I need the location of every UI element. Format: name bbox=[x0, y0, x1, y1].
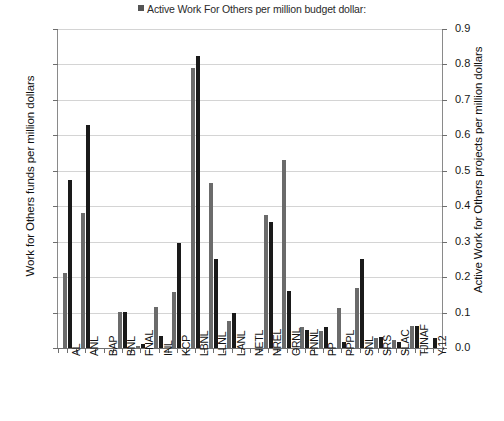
y-axis-right-tick-mark bbox=[442, 64, 447, 65]
x-axis-label: LLNL bbox=[216, 332, 228, 356]
x-axis-label: FNAL bbox=[143, 330, 155, 356]
x-axis-label: NETL bbox=[253, 330, 265, 356]
y-axis-left-tick-mark bbox=[53, 242, 58, 243]
x-axis-label: BNL bbox=[125, 336, 137, 356]
y-axis-right-tick-label: 0.8 bbox=[455, 57, 495, 69]
x-axis-tick-mark bbox=[159, 348, 160, 353]
gridline bbox=[58, 29, 442, 30]
x-axis-tick-mark bbox=[433, 348, 434, 353]
y-axis-left-tick-mark bbox=[53, 100, 58, 101]
x-axis-tick-mark bbox=[378, 348, 379, 353]
x-axis-label: Y-12 bbox=[436, 336, 448, 356]
x-axis-tick-mark bbox=[360, 348, 361, 353]
gridline bbox=[58, 206, 442, 207]
y-axis-left-title: Work for Others funds per million dollar… bbox=[24, 61, 36, 291]
x-axis-tick-mark bbox=[396, 348, 397, 353]
y-axis-right-tick-label: 0.0 bbox=[455, 341, 495, 353]
x-axis-label: ANL bbox=[88, 336, 100, 356]
y-axis-right-tick-label: 0.9 bbox=[455, 22, 495, 34]
x-axis-tick-mark bbox=[415, 348, 416, 353]
x-axis-label: LBNL bbox=[198, 331, 210, 356]
x-axis-tick-mark bbox=[341, 348, 342, 353]
x-axis-tick-mark bbox=[104, 348, 105, 353]
chart-container: Active Work For Others per million budge… bbox=[0, 0, 504, 421]
legend-swatch-icon bbox=[138, 5, 144, 11]
x-axis-tick-mark bbox=[232, 348, 233, 353]
x-axis-tick-mark bbox=[195, 348, 196, 353]
x-axis-tick-mark bbox=[67, 348, 68, 353]
y-axis-left-tick-mark bbox=[53, 313, 58, 314]
y-axis-right-tick-mark bbox=[442, 206, 447, 207]
x-axis-tick-mark bbox=[122, 348, 123, 353]
bar-funds[interactable] bbox=[264, 215, 268, 348]
x-axis-label: SNL bbox=[363, 336, 375, 356]
x-axis-tick-mark bbox=[213, 348, 214, 353]
chart-legend: Active Work For Others per million budge… bbox=[0, 2, 504, 15]
x-axis-tick-mark bbox=[58, 348, 59, 353]
y-axis-left-tick-mark bbox=[53, 171, 58, 172]
x-axis-tick-mark bbox=[323, 348, 324, 353]
bar-active-projects[interactable] bbox=[196, 56, 200, 348]
gridline bbox=[58, 313, 442, 314]
y-axis-right-tick-mark bbox=[442, 277, 447, 278]
y-axis-right-tick-label: 0.6 bbox=[455, 128, 495, 140]
gridline bbox=[58, 100, 442, 101]
y-axis-right-tick-label: 0.7 bbox=[455, 93, 495, 105]
bar-active-projects[interactable] bbox=[86, 125, 90, 348]
gridline bbox=[58, 64, 442, 65]
x-axis-label: SLAC bbox=[399, 329, 411, 356]
bar-funds[interactable] bbox=[63, 273, 67, 348]
bar-funds[interactable] bbox=[209, 183, 213, 348]
y-axis-left-tick-mark bbox=[53, 29, 58, 30]
y-axis-right-tick-label: 0.4 bbox=[455, 199, 495, 211]
gridline bbox=[58, 135, 442, 136]
y-axis-right-tick-mark bbox=[442, 242, 447, 243]
y-axis-left-tick-mark bbox=[53, 64, 58, 65]
x-axis-label: KCP bbox=[180, 335, 192, 356]
y-axis-right-tick-mark bbox=[442, 135, 447, 136]
x-axis-tick-mark bbox=[287, 348, 288, 353]
y-axis-right-tick-mark bbox=[442, 29, 447, 30]
plot-area bbox=[57, 29, 443, 349]
x-axis-tick-mark bbox=[305, 348, 306, 353]
x-axis-label: LANL bbox=[235, 331, 247, 356]
x-axis-tick-mark bbox=[177, 348, 178, 353]
y-axis-left-tick-mark bbox=[53, 135, 58, 136]
y-axis-left-tick-mark bbox=[53, 277, 58, 278]
legend-label: Active Work For Others per million budge… bbox=[147, 3, 366, 15]
y-axis-right-tick-label: 0.2 bbox=[455, 270, 495, 282]
y-axis-right-tick-mark bbox=[442, 171, 447, 172]
x-axis-label: SRS bbox=[381, 335, 393, 356]
x-axis-tick-mark bbox=[140, 348, 141, 353]
bar-funds[interactable] bbox=[191, 68, 195, 348]
x-axis-label: NREL bbox=[271, 329, 283, 356]
gridline bbox=[58, 171, 442, 172]
y-axis-right-tick-label: 0.5 bbox=[455, 164, 495, 176]
bar-active-projects[interactable] bbox=[68, 180, 72, 348]
x-axis-tick-mark bbox=[85, 348, 86, 353]
x-axis-label: PPPL bbox=[344, 330, 356, 356]
y-axis-right-tick-label: 0.1 bbox=[455, 306, 495, 318]
x-axis-tick-mark bbox=[250, 348, 251, 353]
y-axis-right-tick-mark bbox=[442, 100, 447, 101]
bar-funds[interactable] bbox=[282, 160, 286, 348]
y-axis-right-tick-label: 0.3 bbox=[455, 235, 495, 247]
bar-funds[interactable] bbox=[81, 213, 85, 348]
x-axis-label: ORNL bbox=[290, 328, 302, 356]
x-axis-label: PP bbox=[326, 342, 338, 356]
gridline bbox=[58, 242, 442, 243]
y-axis-right-tick-mark bbox=[442, 313, 447, 314]
bar-active-projects[interactable] bbox=[360, 259, 364, 348]
x-axis-label: BAP bbox=[107, 336, 119, 356]
x-axis-label: AL bbox=[70, 344, 82, 356]
x-axis-label: TJNAF bbox=[418, 324, 430, 356]
x-axis-label: PNNL bbox=[308, 329, 320, 356]
x-axis-tick-mark bbox=[268, 348, 269, 353]
gridline bbox=[58, 277, 442, 278]
x-axis-label: INL bbox=[162, 340, 174, 356]
bar-active-projects[interactable] bbox=[177, 243, 181, 348]
y-axis-left-tick-mark bbox=[53, 206, 58, 207]
